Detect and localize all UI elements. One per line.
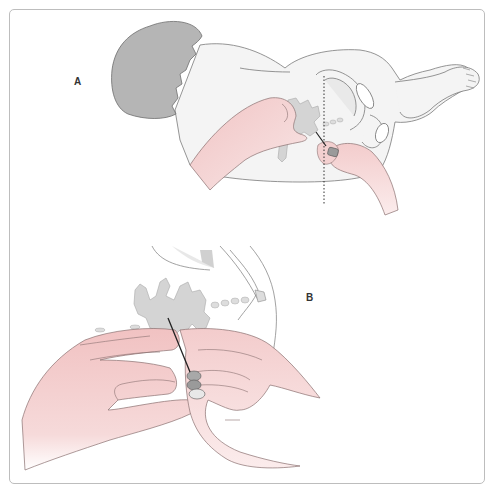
lumbar-puncture-illustration: [0, 0, 494, 494]
panel-b: [22, 246, 320, 470]
panel-label-a: A: [74, 76, 81, 87]
clinician-left-hand-b: [22, 328, 195, 470]
panel-label-b: B: [306, 292, 313, 303]
panel-a: [112, 21, 480, 215]
